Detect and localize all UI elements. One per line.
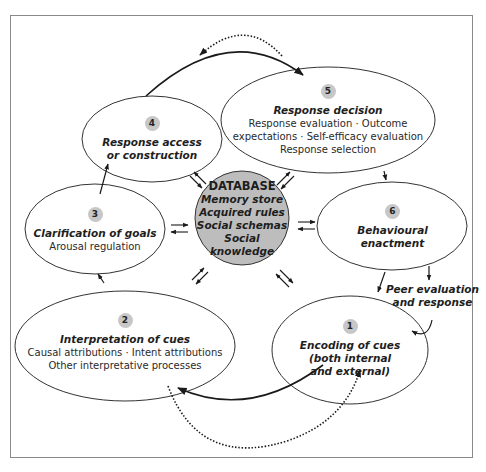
database: DATABASE Memory store Acquired rules Soc… [195, 176, 289, 260]
node-1-title-line2: (both internal [309, 352, 391, 365]
node-3-detail: Arousal regulation [49, 240, 140, 253]
node-5-title: Response decision [273, 104, 382, 117]
node-6-title-line1: Behavioural [357, 224, 428, 237]
node-2: 2 Interpretation of cues Causal attribut… [18, 298, 232, 386]
node-4: 4 Response access or construction [82, 97, 222, 181]
node-2-badge: 2 [118, 313, 133, 328]
node-5: 5 Response decision Response evaluation … [222, 74, 434, 166]
arrow-2-to-3 [98, 274, 104, 283]
node-3-title: Clarification of goals [34, 227, 157, 240]
node-3: 3 Clarification of goals Arousal regulat… [25, 188, 165, 272]
database-item-1: Memory store [201, 193, 283, 206]
node-4-badge: 4 [145, 116, 160, 131]
node-5-detail-1: Response evaluation · Outcome [249, 117, 408, 130]
node-3-badge: 3 [88, 207, 103, 222]
node-1-title-line1: Encoding of cues [300, 339, 400, 352]
bidir-db-1 [276, 270, 293, 287]
peer-evaluation-line1: Peer evaluation [385, 283, 480, 296]
node-2-detail-1: Causal attributions · Intent attribution… [28, 346, 223, 359]
dotted-arrow-5-to-4 [200, 35, 282, 56]
node-1: 1 Encoding of cues (both internal and ex… [275, 298, 425, 398]
bidir-db-3 [171, 225, 188, 232]
diagram: 4 Response access or construction 5 Resp… [0, 0, 486, 472]
database-item-3: Social schemas [197, 219, 287, 232]
node-4-title-line2: or construction [107, 149, 197, 162]
database-heading: DATABASE [208, 179, 275, 193]
node-1-title-line3: and external) [310, 365, 390, 378]
node-4-title-line1: Response access [102, 136, 201, 149]
node-2-title: Interpretation of cues [60, 333, 190, 346]
node-6-badge: 6 [385, 204, 400, 219]
node-5-detail-2: expectations · Self-efficacy evaluation [233, 130, 423, 143]
node-5-badge: 5 [321, 84, 336, 99]
node-5-detail-3: Response selection [280, 143, 376, 156]
node-2-detail-2: Other interpretative processes [48, 359, 201, 372]
bidir-db-2 [192, 268, 208, 284]
database-item-4: Social knowledge [195, 232, 289, 258]
arrow-6-to-1 [378, 272, 385, 292]
node-6-title-line2: enactment [361, 237, 424, 250]
node-1-badge: 1 [343, 319, 358, 334]
bidir-db-6 [298, 222, 315, 229]
arrow-5-to-6 [384, 171, 386, 180]
node-6: 6 Behavioural enactment [320, 186, 465, 268]
database-item-2: Acquired rules [199, 206, 285, 219]
